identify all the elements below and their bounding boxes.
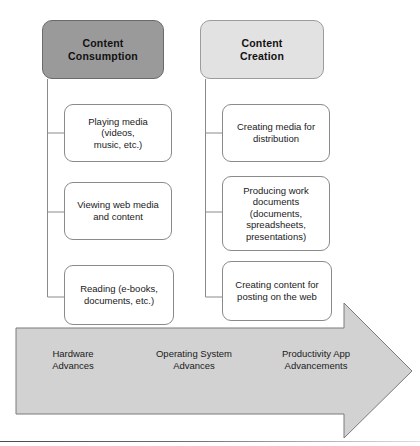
- arrow-label-hardware-advances: Hardware Advances: [28, 348, 118, 373]
- node-label-reading: Reading (e-books, documents, etc.): [71, 283, 167, 306]
- header-box-content-creation[interactable]: Content Creation: [200, 20, 324, 79]
- node-label-creating-content-web: Creating content for posting on the web: [229, 279, 325, 302]
- node-label-playing-media: Playing media (videos, music, etc.): [71, 116, 165, 151]
- page-bottom-edge: [0, 441, 420, 442]
- header-box-content-consumption[interactable]: Content Consumption: [42, 20, 164, 79]
- header-label-content-creation: Content Creation: [207, 37, 317, 63]
- diagram-canvas: Content Consumption Playing media (video…: [0, 0, 420, 446]
- node-label-producing-work-documents: Producing work documents (documents, spr…: [229, 185, 323, 243]
- node-box-playing-media[interactable]: Playing media (videos, music, etc.): [64, 104, 172, 162]
- node-label-creating-media: Creating media for distribution: [229, 121, 323, 144]
- arrow-label-operating-system-advances: Operating System Advances: [139, 348, 249, 373]
- node-box-viewing-web-media[interactable]: Viewing web media and content: [64, 182, 172, 240]
- node-label-viewing-web-media: Viewing web media and content: [71, 199, 165, 222]
- node-box-producing-work-documents[interactable]: Producing work documents (documents, spr…: [222, 176, 330, 251]
- node-box-creating-content-web[interactable]: Creating content for posting on the web: [222, 261, 332, 321]
- connector-group-content-creation: [206, 79, 223, 297]
- arrow-label-productivity-app-advancements: Productivity App Advancements: [262, 348, 370, 373]
- node-box-reading[interactable]: Reading (e-books, documents, etc.): [64, 265, 174, 325]
- connector-group-content-consumption: [48, 79, 65, 297]
- header-label-content-consumption: Content Consumption: [49, 37, 157, 63]
- node-box-creating-media[interactable]: Creating media for distribution: [222, 104, 330, 162]
